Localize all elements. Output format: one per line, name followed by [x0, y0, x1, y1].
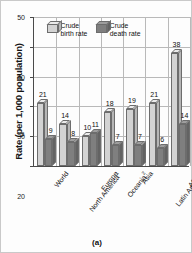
bar-front-face: [104, 112, 111, 166]
legend-swatch-face: [47, 24, 58, 33]
figure-panel: Rate (per 1,000 population) 010203040502…: [0, 0, 192, 253]
bar-value-label: 38: [173, 41, 181, 48]
bar-side-face: [52, 135, 56, 166]
y-axis-tick-label: 20: [17, 192, 25, 199]
bar-side-face: [97, 129, 101, 166]
bar-value-label: 9: [49, 127, 53, 134]
bar-death-rate: [157, 148, 164, 166]
y-axis-tick: 10: [30, 136, 34, 137]
bar-value-label: 6: [160, 136, 164, 143]
legend-swatch-icon: [96, 24, 107, 33]
bar-birth-rate: [104, 112, 111, 166]
bar-side-face: [186, 120, 190, 166]
bar-death-rate: [134, 145, 141, 166]
gridline-horizontal: [34, 17, 190, 18]
bar-value-label: 18: [106, 100, 114, 107]
y-axis-tick: 40: [30, 47, 34, 48]
bar-front-face: [45, 139, 52, 166]
bar-death-rate: [67, 142, 74, 166]
bar-death-rate: [90, 133, 97, 166]
bar-side-face: [142, 141, 146, 166]
y-axis-tick-label: 30: [17, 133, 25, 140]
bar-death-rate: [179, 124, 186, 166]
legend-item: Crudebirth rate: [47, 21, 87, 37]
bar-front-face: [179, 124, 186, 166]
bar-birth-rate: [59, 124, 66, 166]
y-axis-tick: 50: [30, 17, 34, 18]
bar-front-face: [149, 103, 156, 166]
bar-front-face: [82, 136, 89, 166]
bar-front-face: [67, 142, 74, 166]
bar-value-label: 7: [138, 133, 142, 140]
y-axis-tick: 20: [30, 106, 34, 107]
bar-value-label: 14: [181, 112, 189, 119]
bar-death-rate: [112, 145, 119, 166]
legend-label: Crudedeath rate: [110, 21, 141, 37]
bar-value-label: 21: [150, 91, 158, 98]
bar-value-label: 10: [83, 124, 91, 131]
bar-front-face: [90, 133, 97, 166]
bar-value-label: 8: [71, 130, 75, 137]
figure-caption: (a): [1, 238, 192, 247]
bar-birth-rate: [82, 136, 89, 166]
bar-front-face: [37, 103, 44, 166]
bar-front-face: [157, 148, 164, 166]
bar-value-label: 19: [128, 97, 136, 104]
bar-front-face: [126, 109, 133, 166]
bar-front-face: [171, 53, 178, 166]
bar-birth-rate: [126, 109, 133, 166]
bar-death-rate: [45, 139, 52, 166]
legend-swatch-icon: [47, 24, 58, 33]
bar-side-face: [75, 138, 79, 166]
bar-front-face: [59, 124, 66, 166]
bar-birth-rate: [171, 53, 178, 166]
bar-birth-rate: [149, 103, 156, 166]
gridline-horizontal: [34, 77, 190, 78]
gridline-horizontal: [34, 47, 190, 48]
x-axis-category-label: Latin Americaand theCaribbean: [174, 170, 192, 217]
x-axis-category-label: World: [53, 170, 70, 189]
y-axis-tick-label: 50: [17, 14, 25, 21]
bar-birth-rate: [37, 103, 44, 166]
bar-value-label: 7: [116, 133, 120, 140]
legend-item: Crudedeath rate: [96, 21, 140, 37]
gridline-vertical: [190, 17, 191, 166]
x-axis-line: [33, 166, 189, 167]
y-axis-tick-label: 40: [17, 73, 25, 80]
y-axis-tick: 30: [30, 77, 34, 78]
bar-value-label: 14: [61, 112, 69, 119]
bar-front-face: [134, 145, 141, 166]
bar-front-face: [112, 145, 119, 166]
bar-value-label: 21: [39, 91, 47, 98]
bar-value-label: 11: [92, 121, 99, 128]
legend-label: Crudebirth rate: [61, 21, 88, 37]
y-axis-title: Rate (per 1,000 population): [13, 27, 24, 177]
legend: Crudebirth rateCrudedeath rate: [47, 21, 167, 41]
legend-swatch-face: [96, 24, 107, 33]
